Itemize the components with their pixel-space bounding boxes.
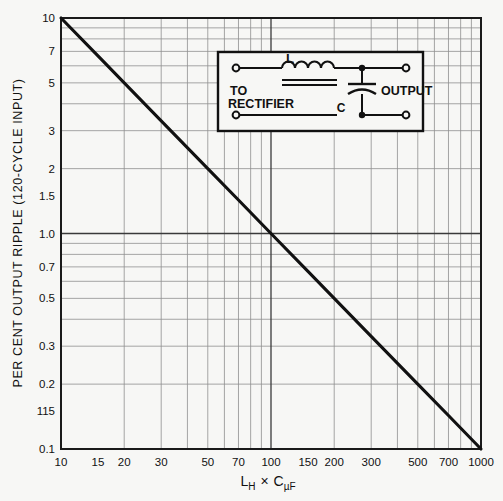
x-title-c-sub: µF [284,481,296,492]
x-tick-label: 50 [201,456,214,468]
inductor-label: L [286,51,294,66]
x-tick-label: 15 [92,456,105,468]
x-tick-label: 20 [118,456,131,468]
x-tick-label: 10 [55,456,68,468]
x-tick-label: 300 [362,456,381,468]
x-tick-label: 100 [261,456,280,468]
input-bottom-terminal [233,112,240,119]
x-title-l: L [240,473,248,489]
x-tick-label: 500 [408,456,427,468]
y-tick-label: 3 [49,125,55,137]
y-tick-label: 0.1 [39,443,55,455]
inset-label-to: TO [230,84,247,98]
x-tick-label: 200 [325,456,344,468]
y-tick-label: 2 [49,163,55,175]
x-tick-label: 70 [232,456,245,468]
y-tick-label: 1.5 [39,190,55,202]
y-tick-label: 0.3 [39,340,55,352]
y-tick-label: 115 [37,405,55,417]
y-tick-label: 0.5 [39,292,55,304]
output-top-terminal [403,65,410,72]
input-top-terminal [233,65,240,72]
x-title-l-sub: H [248,481,255,492]
x-title-times: × [260,473,268,489]
ripple-attenuation-chart: 1015203050701001502003005007001000 10753… [0,0,503,501]
y-tick-label: 5 [49,77,55,89]
y-tick-label: 0.7 [39,261,55,273]
inset-label-output: OUTPUT [381,84,433,98]
x-tick-label: 1000 [468,456,494,468]
output-bottom-terminal [403,112,410,119]
capacitor-label: C [337,101,346,115]
y-tick-label: 10 [42,12,55,24]
x-tick-label: 30 [155,456,168,468]
inset-label-rectifier: RECTIFIER [228,97,294,111]
y-tick-label: 1.0 [39,228,55,240]
y-tick-label: 7 [49,45,55,57]
x-title-c: C [274,473,284,489]
x-tick-label: 150 [298,456,317,468]
x-tick-label: 700 [439,456,458,468]
lc-filter-inset: L C TO RECTIFIER OUTPUT [218,51,433,131]
y-tick-label: 0.2 [39,378,55,390]
y-axis-title: PER CENT OUTPUT RIPPLE (120-CYCLE INPUT) [11,78,25,387]
